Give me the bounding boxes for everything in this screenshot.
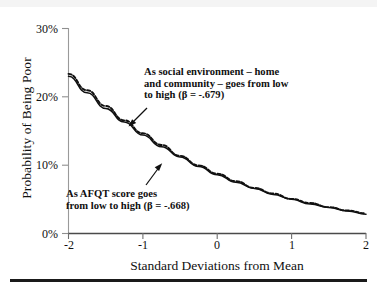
arrow-afqt-score — [146, 163, 162, 185]
x-tick-label-2: 2 — [351, 238, 377, 253]
annotation-arrows — [129, 108, 163, 185]
x-tick-label-0: 0 — [202, 238, 232, 253]
annotation-afqt-score: As AFQT score goes from low to high (β =… — [66, 188, 190, 211]
chart-figure: 30% 20% 10% 0% -2 -1 0 1 2 Probability o… — [0, 0, 377, 293]
annotation-social-environment: As social environment – home and communi… — [144, 66, 288, 101]
x-axis-title: Standard Deviations from Mean — [68, 258, 366, 274]
x-tick-label-neg1: -1 — [128, 238, 158, 253]
figure-bottom-rule — [10, 279, 367, 282]
x-tick-label-neg2: -2 — [54, 238, 84, 253]
y-axis-title: Probability of Being Poor — [19, 13, 35, 243]
x-tick-label-1: 1 — [277, 238, 307, 253]
arrow-social-environment — [129, 108, 148, 127]
